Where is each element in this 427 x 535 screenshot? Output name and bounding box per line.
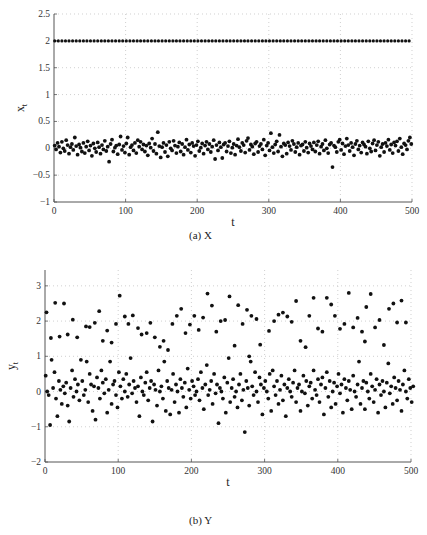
data-point — [180, 386, 184, 390]
data-point — [58, 335, 62, 339]
data-point — [398, 137, 402, 141]
data-point — [332, 39, 335, 42]
data-point — [404, 39, 407, 42]
data-point — [225, 150, 229, 154]
data-point — [215, 143, 219, 147]
y-tick-label: 1.5 — [38, 63, 50, 73]
data-point — [324, 138, 328, 142]
x-tick-label: 400 — [331, 466, 346, 476]
data-point — [116, 406, 120, 410]
data-point — [341, 411, 345, 415]
data-point — [163, 150, 167, 154]
data-point — [202, 152, 206, 156]
y-tick-label: 2.5 — [38, 9, 50, 19]
data-point — [281, 154, 285, 158]
data-point — [192, 384, 196, 388]
data-point — [254, 39, 257, 42]
data-point — [104, 149, 108, 153]
data-point — [307, 39, 310, 42]
data-point — [272, 319, 276, 323]
data-point — [54, 397, 58, 401]
data-point — [351, 374, 355, 378]
scatter-plot-x: 0100200300400500−1−0.500.511.522.5txt — [13, 9, 419, 229]
data-point — [126, 322, 130, 326]
data-point — [365, 39, 368, 42]
data-point — [243, 430, 247, 434]
data-point — [155, 152, 159, 156]
data-point — [329, 303, 333, 307]
data-point — [126, 136, 130, 140]
data-point — [110, 39, 113, 42]
data-point — [298, 153, 302, 157]
data-point — [388, 148, 392, 152]
data-point — [400, 299, 404, 303]
data-point — [64, 138, 68, 142]
data-point — [105, 411, 109, 415]
data-point — [410, 400, 414, 404]
data-point — [275, 379, 279, 383]
data-point — [279, 39, 282, 42]
data-point — [143, 150, 147, 154]
data-point — [133, 141, 137, 145]
data-point — [230, 386, 234, 390]
data-point — [203, 144, 207, 148]
data-point — [94, 150, 98, 154]
data-point — [193, 39, 196, 42]
data-point — [232, 39, 235, 42]
data-point — [300, 39, 303, 42]
data-point — [179, 377, 183, 381]
data-point — [206, 393, 210, 397]
data-point — [218, 141, 222, 145]
data-point — [242, 143, 246, 147]
data-point — [280, 374, 284, 378]
data-point — [286, 39, 289, 42]
data-point — [73, 377, 77, 381]
data-point — [93, 39, 96, 42]
data-point — [265, 390, 269, 394]
data-point — [325, 39, 328, 42]
data-point — [353, 390, 357, 394]
data-point — [397, 149, 401, 153]
x-tick-label: 100 — [118, 206, 133, 216]
data-point — [293, 150, 297, 154]
data-point — [200, 39, 203, 42]
data-point — [259, 142, 263, 146]
data-point — [134, 151, 138, 155]
data-point — [407, 139, 411, 143]
y-tick-label: 0 — [45, 143, 50, 153]
data-point — [400, 39, 403, 42]
data-point — [228, 139, 232, 143]
data-point — [266, 397, 270, 401]
data-point — [357, 360, 361, 364]
data-point — [379, 393, 383, 397]
data-point — [286, 141, 290, 145]
data-points — [53, 39, 413, 169]
data-point — [366, 139, 370, 143]
data-point — [411, 384, 415, 388]
data-point — [231, 377, 235, 381]
data-point — [364, 145, 368, 149]
data-point — [128, 39, 131, 42]
data-point — [277, 313, 281, 317]
data-point — [395, 139, 399, 143]
data-point — [303, 140, 307, 144]
data-point — [71, 148, 75, 152]
data-point — [399, 145, 403, 149]
data-point — [348, 149, 352, 153]
data-point — [345, 398, 349, 402]
y-tick-label: −1 — [40, 197, 50, 207]
data-point — [240, 398, 244, 402]
data-point — [338, 391, 342, 395]
y-tick-label: 2 — [36, 316, 41, 326]
data-point — [139, 376, 143, 380]
data-point — [67, 152, 71, 156]
data-point — [153, 142, 157, 146]
data-point — [313, 150, 317, 154]
data-point — [201, 386, 205, 390]
data-point — [305, 146, 309, 150]
data-point — [401, 383, 405, 387]
data-point — [88, 325, 92, 329]
data-point — [156, 130, 160, 134]
data-point — [186, 367, 190, 371]
data-point — [367, 397, 371, 401]
